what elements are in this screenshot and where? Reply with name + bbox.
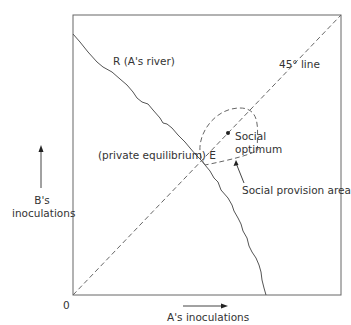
social-provision-area-label: Social provision area — [242, 184, 351, 196]
social-optimum-label-line2: optimum — [235, 143, 282, 155]
y-axis-label-line1: B's — [12, 194, 72, 206]
reaction-curve-label: R (A's river) — [113, 55, 175, 67]
arrow-right-icon — [221, 304, 228, 309]
pointer-arrowhead-icon — [234, 160, 239, 166]
arrow-up-icon — [39, 145, 44, 152]
social-provision-pointer — [236, 163, 244, 183]
y-axis-label-line2: inoculations — [12, 207, 72, 219]
social-optimum-label-line1: Social — [235, 130, 266, 142]
social-optimum-point — [226, 131, 230, 135]
private-equilibrium-label: (private equilibrium) E — [98, 149, 216, 161]
x-axis-label: A's inoculations — [167, 311, 249, 323]
forty-five-line-label: 45° line — [279, 58, 320, 70]
origin-label: 0 — [63, 299, 70, 311]
